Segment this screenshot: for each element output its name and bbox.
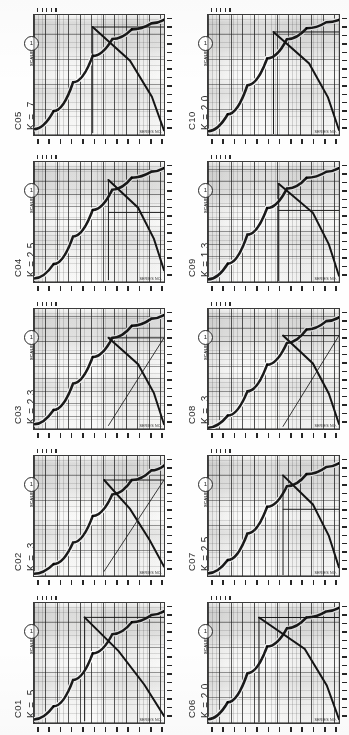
callout-circle-marker: 1 [198,477,213,492]
y-tick [167,312,172,313]
x-tick [71,139,73,144]
chart-panel-c04: K = 2.5C04SERIES NO.1SCALE [0,147,174,294]
y-tick [167,698,172,699]
y-tick [167,568,172,569]
data-point [266,506,268,508]
y-tick [342,119,347,120]
y-tick [167,484,172,485]
x-tick [116,139,118,144]
y-axis-tick-labels [165,161,173,283]
data-point [53,409,55,411]
y-tick [167,35,172,36]
x-tick [71,727,73,732]
top-tick [42,596,43,600]
x-tick [161,433,163,438]
top-tick [46,8,47,12]
x-tick [94,727,96,732]
panel-caption-c03: K = 2.3C03 [2,294,34,441]
panel-id-label: C10 [186,111,197,130]
chart-curves [34,456,164,576]
chart-panel-c05: K = .7C05SERIES NO.1SCALE [0,0,174,147]
data-point [92,652,94,654]
data-point [227,414,229,416]
chart-plot-area: SERIES NO. [207,455,340,577]
x-tick [301,727,303,732]
x-tick [139,433,141,438]
x-tick [116,580,118,585]
y-tick [167,413,172,414]
axis-scale-legend: SCALE [29,345,34,360]
data-point [305,473,307,475]
y-tick [167,509,172,510]
data-point [305,27,307,29]
chart-plot-area: SERIES NO. [33,455,165,577]
x-tick [324,580,326,585]
y-tick [342,241,347,242]
top-tick [216,155,217,159]
series-rising-response [34,466,164,574]
x-tick [127,727,129,732]
chart-plot-area: SERIES NO. [207,602,340,724]
x-tick [222,139,224,144]
y-tick [167,388,172,389]
data-point [92,209,94,211]
y-tick [167,690,172,691]
y-tick [342,656,347,657]
y-tick [167,337,172,338]
x-axis-tick-labels [33,430,165,439]
x-axis-tick-labels [207,283,340,292]
y-tick [167,459,172,460]
x-tick [105,580,107,585]
top-tick [211,302,212,306]
x-tick [290,433,292,438]
chart-corner-note: SERIES NO. [139,718,162,722]
x-tick [37,139,39,144]
y-tick [342,631,347,632]
y-tick [342,501,347,502]
y-tick [167,257,172,258]
x-tick [234,727,236,732]
y-tick [342,673,347,674]
chart-corner-note: SERIES NO. [314,718,337,722]
y-tick [342,388,347,389]
top-tick [229,8,230,12]
x-tick [313,433,315,438]
top-tick [42,449,43,453]
x-tick [116,433,118,438]
top-tick [229,449,230,453]
y-axis-tick-labels [340,602,348,724]
data-point [266,645,268,647]
data-point [227,559,229,561]
y-tick [342,77,347,78]
x-tick [161,580,163,585]
top-tick [216,8,217,12]
x-tick [48,139,50,144]
x-tick [335,727,337,732]
x-tick [324,139,326,144]
x-tick [245,580,247,585]
data-point [227,263,229,265]
x-axis-tick-labels [33,136,165,145]
panel-id-label: C03 [12,405,23,424]
x-tick [234,433,236,438]
y-tick [342,35,347,36]
x-tick [71,433,73,438]
y-tick [342,26,347,27]
top-tick [55,8,56,12]
top-tick [225,596,226,600]
chart-corner-note: SERIES NO. [139,277,162,281]
top-tick [211,8,212,12]
chart-curves [208,456,339,577]
data-point [92,515,94,517]
top-tick [46,449,47,453]
panel-id-label: C01 [12,699,23,718]
x-tick [245,727,247,732]
callout-circle-marker: 1 [198,183,213,198]
x-tick [48,727,50,732]
y-axis-tick-labels [340,308,348,430]
chart-panel-c01: K = .5C01SERIES NO.1SCALE [0,588,174,735]
panel-caption-c06: K = 2.0C06 [176,588,208,735]
x-tick [60,286,62,291]
x-axis-tick-labels [207,577,340,586]
x-tick [313,139,315,144]
